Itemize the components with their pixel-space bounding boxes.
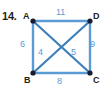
problem-number: 14. [2, 11, 17, 22]
edge-weight-BD: 5 [71, 48, 76, 57]
vertex-dot-C [87, 70, 92, 75]
vertex-label-B: B [24, 76, 31, 85]
edge-weight-AD: 11 [56, 8, 65, 17]
vertex-label-A: A [23, 12, 30, 21]
vertex-dot-A [30, 18, 35, 23]
vertex-label-C: C [93, 76, 100, 85]
vertex-label-D: D [93, 12, 100, 21]
edge-weight-DC: 9 [90, 40, 95, 49]
edge-weight-AB: 6 [20, 40, 25, 49]
weighted-graph-figure: 14. A D B C 11 6 9 8 4 5 [0, 0, 112, 95]
vertex-dot-D [87, 18, 92, 23]
edge-weight-AC: 4 [38, 48, 43, 57]
vertex-dot-B [30, 70, 35, 75]
edge-weight-BC: 8 [57, 77, 62, 86]
